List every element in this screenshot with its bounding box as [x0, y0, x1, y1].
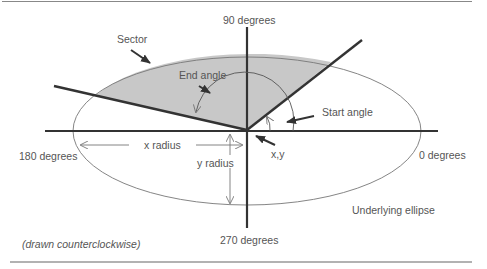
label-y-radius: y radius [197, 157, 234, 169]
label-end-angle: End angle [179, 69, 226, 81]
label-underlying-ellipse: Underlying ellipse [352, 204, 435, 216]
label-x-radius: x radius [144, 139, 181, 151]
start-angle-arc [267, 117, 270, 131]
xy-pointer-arrow [256, 136, 275, 145]
ellipse-sector-diagram: 90 degrees Sector End angle Start angle … [0, 0, 487, 269]
label-180-degrees: 180 degrees [19, 150, 77, 162]
label-0-degrees: 0 degrees [419, 149, 466, 161]
label-xy: x,y [271, 148, 285, 160]
label-start-angle: Start angle [322, 106, 373, 118]
start-angle-pointer-arrow [287, 116, 314, 122]
label-90-degrees: 90 degrees [223, 14, 276, 26]
label-drawn-counterclockwise: (drawn counterclockwise) [22, 238, 140, 250]
sector-pointer-arrow [131, 50, 150, 63]
label-sector: Sector [117, 33, 148, 45]
label-270-degrees: 270 degrees [220, 234, 278, 246]
